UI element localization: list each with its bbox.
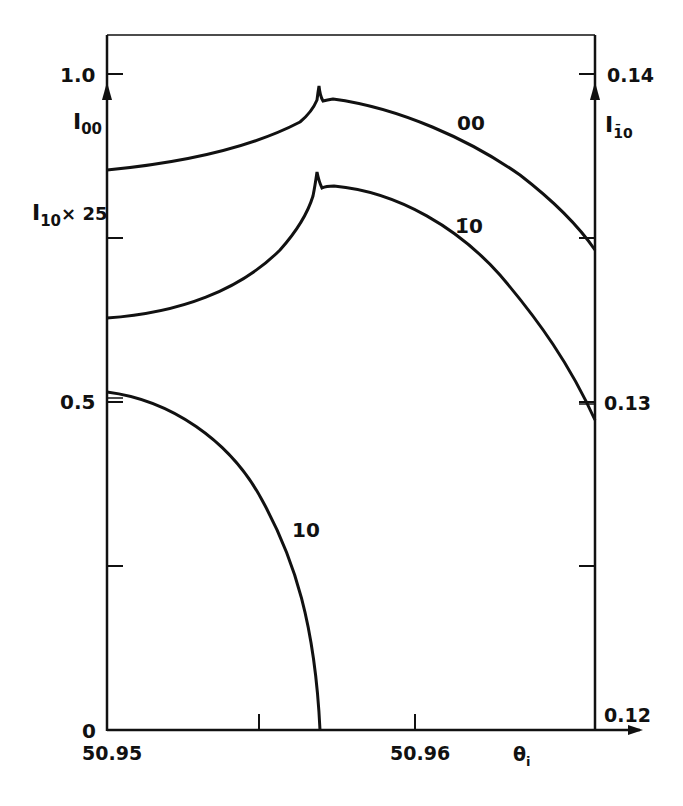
curve-10 bbox=[107, 392, 320, 730]
y-left-label-1.0: 1.0 bbox=[60, 63, 95, 87]
x-label-50.95: 50.95 bbox=[82, 742, 142, 764]
right-axis-arrow-icon bbox=[590, 82, 600, 100]
curve-label-10: 10 bbox=[292, 518, 320, 542]
y-right-label-0.14: 0.14 bbox=[607, 64, 654, 86]
y-right-label-0.12: 0.12 bbox=[604, 704, 651, 726]
curve-00 bbox=[107, 86, 595, 250]
left-axis-arrow-icon bbox=[102, 82, 112, 100]
x-label-50.96: 50.96 bbox=[390, 742, 450, 764]
curve-label-minus-10: 1̄0 bbox=[455, 214, 483, 238]
x-axis-name: θi bbox=[513, 743, 531, 769]
curve-label-00: 00 bbox=[457, 111, 485, 135]
y-left-label-0.5: 0.5 bbox=[60, 390, 95, 414]
y-left-secondary-axis-name: I10× 25 bbox=[32, 200, 107, 230]
chart: 1.0 0.5 0 I00 I10× 25 0.14 0.13 0.12 I1̄… bbox=[0, 0, 683, 806]
curve-minus-10 bbox=[107, 172, 595, 420]
y-right-axis-name: I1̄0 bbox=[605, 112, 633, 141]
x-axis-arrow-icon bbox=[628, 725, 643, 735]
y-left-axis-name: I00 bbox=[73, 109, 102, 138]
y-right-label-0.13: 0.13 bbox=[604, 392, 651, 414]
y-left-label-0: 0 bbox=[82, 719, 96, 743]
